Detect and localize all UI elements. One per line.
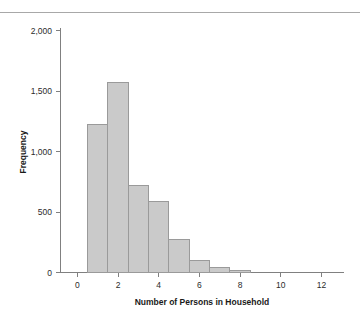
histogram-bar bbox=[230, 271, 250, 273]
histogram-bar bbox=[128, 185, 148, 272]
y-axis-ticks bbox=[56, 31, 61, 273]
histogram-bar bbox=[210, 267, 230, 272]
x-axis-ticks bbox=[77, 273, 321, 278]
y-tick-label-1500: 1,500 bbox=[31, 86, 53, 96]
y-tick-label-2000: 2,000 bbox=[31, 26, 53, 36]
y-axis-title: Frequency bbox=[18, 130, 28, 173]
x-tick-label-6: 6 bbox=[197, 280, 202, 290]
x-tick-label-8: 8 bbox=[238, 280, 243, 290]
y-tick-label-1000: 1,000 bbox=[31, 147, 53, 157]
x-tick-label-2: 2 bbox=[116, 280, 121, 290]
y-tick-label-0: 0 bbox=[47, 268, 52, 278]
histogram-bar bbox=[189, 260, 209, 272]
x-tick-label-10: 10 bbox=[276, 280, 286, 290]
histogram-plot: 0 500 1,000 1,500 2,000 0 2 4 6 8 10 12 … bbox=[0, 0, 360, 322]
histogram-bar bbox=[87, 124, 107, 272]
y-tick-label-500: 500 bbox=[38, 207, 52, 217]
x-axis-title: Number of Persons in Household bbox=[135, 297, 270, 307]
histogram-figure: 0 500 1,000 1,500 2,000 0 2 4 6 8 10 12 … bbox=[0, 0, 360, 322]
x-tick-label-12: 12 bbox=[317, 280, 327, 290]
histogram-bar bbox=[108, 83, 128, 273]
histogram-bar bbox=[169, 240, 189, 273]
x-tick-label-0: 0 bbox=[75, 280, 80, 290]
histogram-bars bbox=[87, 83, 250, 273]
x-tick-label-4: 4 bbox=[156, 280, 161, 290]
histogram-bar bbox=[149, 201, 169, 272]
